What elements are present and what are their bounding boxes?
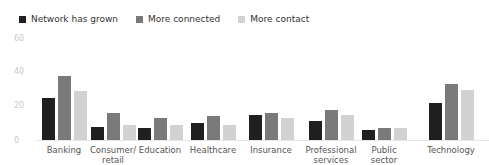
bar — [154, 118, 167, 140]
bar — [309, 121, 322, 140]
bar — [223, 125, 236, 140]
chart-legend: Network has grown More connected More co… — [19, 14, 309, 24]
y-tick-20: 20 — [14, 101, 34, 110]
plot-area — [35, 39, 489, 140]
bar-group — [91, 113, 136, 140]
bar-group — [42, 76, 87, 140]
bar — [341, 115, 354, 140]
x-tick-label: Publicsector — [352, 145, 416, 165]
x-axis-baseline — [35, 140, 489, 141]
x-tick-label: Technology — [419, 145, 483, 155]
bar — [429, 103, 442, 140]
bar — [394, 128, 407, 140]
y-tick-40: 40 — [14, 67, 34, 76]
bar — [123, 125, 136, 140]
x-tick-label: Insurance — [239, 145, 303, 155]
legend-label: More contact — [250, 14, 309, 24]
bar-group — [191, 116, 236, 140]
bar — [378, 128, 391, 140]
legend-item-more-contact: More contact — [238, 14, 309, 24]
legend-label: More connected — [148, 14, 220, 24]
bar — [91, 127, 104, 140]
bar — [461, 90, 474, 141]
bar — [362, 130, 375, 140]
y-tick-60: 60 — [14, 34, 34, 43]
bar — [281, 118, 294, 140]
bar — [445, 84, 458, 140]
bar — [74, 91, 87, 140]
legend-swatch-icon — [19, 16, 26, 23]
bar-group — [429, 84, 474, 140]
legend-item-network-has-grown: Network has grown — [19, 14, 118, 24]
bar — [58, 76, 71, 140]
bar — [265, 113, 278, 140]
bar — [191, 123, 204, 140]
bar — [249, 115, 262, 140]
bar-group — [309, 110, 354, 140]
bar — [138, 128, 151, 140]
bar — [207, 116, 220, 140]
bar — [107, 113, 120, 140]
bar — [170, 125, 183, 140]
legend-item-more-connected: More connected — [136, 14, 220, 24]
y-tick-0: 0 — [14, 136, 34, 145]
bar-group — [362, 128, 407, 140]
legend-swatch-icon — [136, 16, 143, 23]
bar — [42, 98, 55, 140]
legend-swatch-icon — [238, 16, 245, 23]
legend-label: Network has grown — [31, 14, 118, 24]
bar-group — [138, 118, 183, 140]
bar — [325, 110, 338, 140]
x-tick-label: Healthcare — [181, 145, 245, 155]
bar-group — [249, 113, 294, 140]
